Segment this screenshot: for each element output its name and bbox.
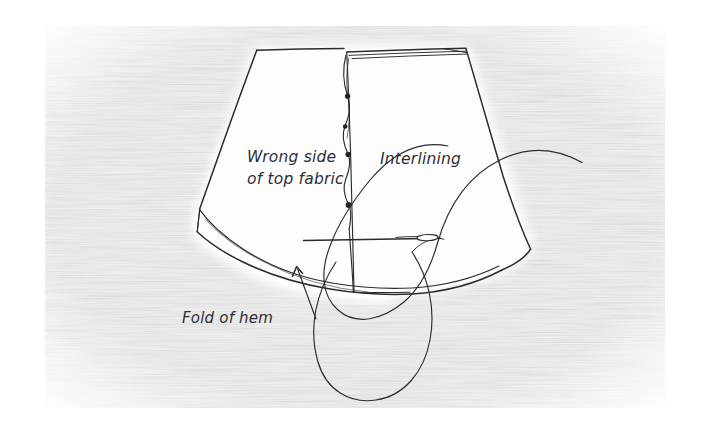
seam-knot	[346, 152, 351, 157]
illustration-canvas: Wrong side of top fabric Interlining Fol…	[0, 0, 704, 435]
wrong-side-label-line2: of top fabric	[247, 170, 344, 188]
seam-knot	[343, 124, 348, 129]
needle-eye	[417, 234, 438, 241]
fold-of-hem-label: Fold of hem	[182, 309, 273, 327]
sewing-illustration: Wrong side of top fabric Interlining Fol…	[0, 0, 704, 435]
wrong-side-label-line1: Wrong side	[247, 148, 336, 166]
seam-knot	[345, 94, 350, 99]
seam-knot	[346, 202, 352, 208]
interlining-label: Interlining	[380, 150, 461, 168]
